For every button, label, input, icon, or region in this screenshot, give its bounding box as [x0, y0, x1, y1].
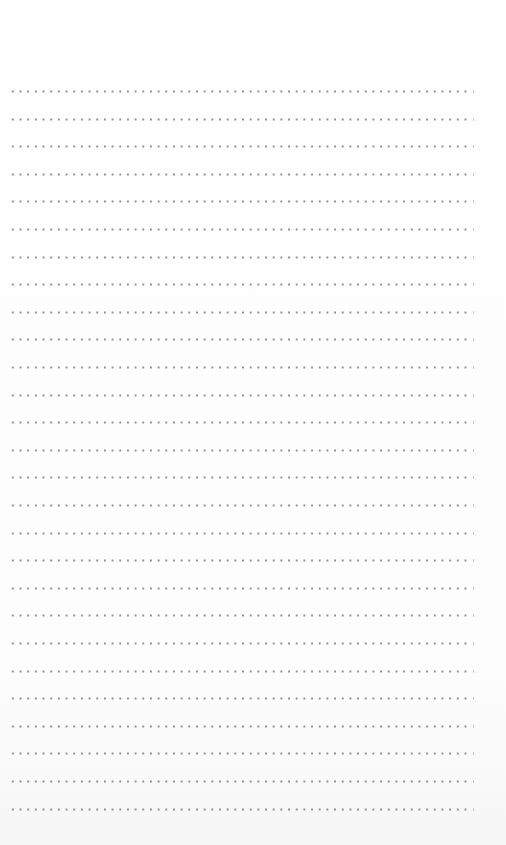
dotted-rule-line — [9, 256, 471, 259]
dotted-rule-line — [9, 725, 471, 728]
dotted-rule-line — [9, 145, 471, 148]
dotted-rule-line — [9, 90, 471, 93]
dotted-rule-line — [9, 697, 471, 700]
dotted-rule-line — [9, 449, 471, 452]
dotted-rule-line — [9, 200, 471, 203]
dotted-rule-line — [9, 532, 471, 535]
dotted-rule-line — [9, 118, 471, 121]
dotted-rule-line — [9, 338, 471, 341]
dotted-rule-line — [9, 311, 471, 314]
dotted-rule-line — [9, 752, 471, 755]
dotted-rule-line — [9, 614, 471, 617]
dotted-rule-line — [9, 476, 471, 479]
dotted-rule-line — [9, 394, 471, 397]
dotted-rule-line — [9, 173, 471, 176]
dotted-rule-line — [9, 808, 471, 811]
dotted-rule-line — [9, 642, 471, 645]
dotted-rule-line — [9, 587, 471, 590]
dotted-rule-line — [9, 366, 471, 369]
dotted-rule-line — [9, 559, 471, 562]
dotted-rule-line — [9, 780, 471, 783]
dotted-rule-line — [9, 283, 471, 286]
dotted-rule-line — [9, 504, 471, 507]
dotted-rule-line — [9, 670, 471, 673]
dotted-rule-line — [9, 421, 471, 424]
dotted-rule-line — [9, 228, 471, 231]
writing-page — [0, 0, 506, 845]
